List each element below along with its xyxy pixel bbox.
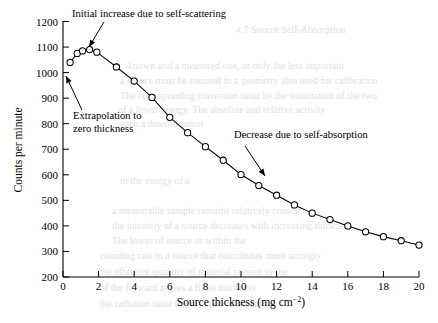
data-point [87, 47, 93, 53]
annotation-extrapolation-arrow [66, 76, 82, 110]
x-axis-title-main: Source thickness (mg cm [177, 296, 293, 309]
x-tick-label-8: 8 [203, 280, 209, 292]
data-series-markers [67, 47, 422, 249]
annotation-self-absorption-arrow [245, 146, 265, 176]
annotation-self-absorption: Decrease due to self-absorption [234, 129, 369, 176]
arrow-head [89, 40, 95, 47]
data-point [327, 216, 333, 222]
annotation-extrapolation-line1: Extrapolation to [73, 110, 142, 121]
data-point [113, 64, 119, 70]
y-tick-label-800: 800 [42, 118, 59, 130]
data-point [238, 171, 244, 177]
annotation-self-scattering: Initial increase due to self-scattering [72, 8, 227, 47]
x-axis-title-superscript: −2 [293, 295, 302, 304]
y-tick-label-600: 600 [42, 169, 59, 181]
x-tick-label-4: 4 [131, 280, 137, 292]
x-tick-label-6: 6 [167, 280, 173, 292]
data-point [345, 223, 351, 229]
annotation-self-scattering-arrow [89, 22, 104, 47]
annotation-self-absorption-label: Decrease due to self-absorption [234, 129, 369, 140]
y-tick-label-900: 900 [42, 92, 59, 104]
data-series-line [70, 50, 419, 245]
y-tick-label-200: 200 [42, 271, 59, 283]
data-point [202, 144, 208, 150]
data-point [67, 59, 73, 65]
x-axis-ticks: 02468101214161820 [60, 271, 425, 292]
data-point [131, 78, 137, 84]
y-tick-label-1000: 1000 [36, 67, 59, 79]
x-tick-label-16: 16 [342, 280, 354, 292]
data-point [79, 48, 85, 54]
data-point [363, 229, 369, 235]
annotation-extrapolation-line2: zero thickness [73, 123, 133, 134]
y-tick-label-1200: 1200 [36, 16, 59, 28]
y-tick-label-500: 500 [42, 194, 59, 206]
y-axis-ticks: 200300400500600700800900100011001200 [36, 16, 69, 284]
annotation-extrapolation: Extrapolation to zero thickness [66, 76, 144, 134]
x-tick-label-0: 0 [60, 280, 66, 292]
x-tick-label-10: 10 [236, 280, 248, 292]
figure-container: 4.7 Source Self-Absorptionknown and a me… [0, 0, 438, 323]
annotation-extrapolation-label: Extrapolation to zero thickness [73, 110, 144, 134]
x-tick-label-2: 2 [96, 280, 102, 292]
data-point [416, 242, 422, 248]
x-axis-title: Source thickness (mg cm−2) [177, 295, 305, 309]
x-tick-label-20: 20 [414, 280, 426, 292]
data-point [256, 182, 262, 188]
x-tick-label-12: 12 [271, 280, 282, 292]
x-tick-label-14: 14 [307, 280, 319, 292]
data-point [94, 49, 100, 55]
chart-svg: 200300400500600700800900100011001200 024… [0, 0, 438, 323]
x-axis-title-close: ) [301, 296, 305, 309]
data-point [309, 210, 315, 216]
data-point [291, 202, 297, 208]
y-tick-label-700: 700 [42, 143, 59, 155]
axis-lines [63, 21, 419, 277]
y-tick-label-1100: 1100 [36, 41, 58, 53]
data-point [220, 157, 226, 163]
data-point [167, 114, 173, 120]
x-tick-label-18: 18 [378, 280, 390, 292]
data-point [274, 192, 280, 198]
data-point [398, 238, 404, 244]
data-point [149, 94, 155, 100]
arrow-head [259, 169, 265, 176]
data-point [380, 234, 386, 240]
y-axis-title: Counts per minute [12, 108, 25, 193]
y-tick-label-400: 400 [42, 220, 59, 232]
y-tick-label-300: 300 [42, 245, 59, 257]
annotation-self-scattering-label: Initial increase due to self-scattering [72, 8, 227, 19]
data-point [185, 130, 191, 136]
